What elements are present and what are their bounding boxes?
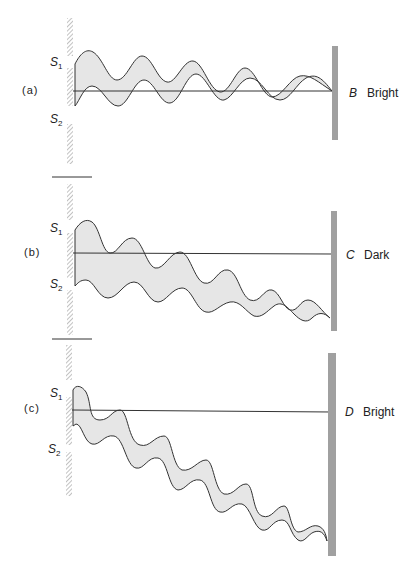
panel-b: [52, 184, 337, 339]
s2-letter: S: [48, 442, 56, 456]
s2-subscript: 2: [58, 284, 62, 293]
barrier-c-bottom: [66, 452, 72, 496]
barrier-b-bottom: [67, 290, 73, 335]
s1-letter: S: [50, 55, 58, 69]
barrier-b-top: [67, 184, 73, 220]
panel-label-a: (a): [22, 84, 38, 96]
wave-band-c: [73, 386, 327, 541]
s2-subscript: 2: [56, 449, 60, 458]
s1-subscript: 1: [58, 228, 62, 237]
screen-b: [331, 211, 337, 331]
screen-c: [328, 353, 336, 556]
centerline-c: [72, 410, 332, 412]
slit-label-s1-b: S1: [50, 221, 62, 235]
result-label-c: Bright: [363, 405, 394, 419]
slit-label-s2-c: S2: [48, 442, 60, 456]
panel-c: [66, 345, 336, 556]
wave-band-a: [75, 51, 332, 106]
panel-a: [52, 18, 338, 177]
wave-band-b: [75, 220, 330, 321]
s1-letter: S: [50, 221, 58, 235]
point-label-b: B: [349, 86, 357, 100]
s2-letter: S: [50, 277, 58, 291]
result-label-a: Bright: [367, 86, 398, 100]
result-label-b: Dark: [364, 248, 389, 262]
slit-label-s2-a: S2: [50, 112, 62, 126]
barrier-c-top: [66, 345, 72, 380]
barrier-a-mid: [67, 68, 73, 106]
barrier-c-mid: [66, 397, 72, 445]
panel-label-c: (c): [24, 402, 40, 414]
s1-letter: S: [50, 386, 58, 400]
panel-label-b: (b): [24, 246, 40, 258]
barrier-a: [67, 18, 73, 56]
point-label-c: C: [346, 248, 355, 262]
screen-a: [332, 46, 338, 140]
barrier-a-bottom: [67, 124, 73, 164]
barrier-b-mid: [67, 233, 73, 278]
slit-label-s1-c: S1: [50, 386, 62, 400]
s2-subscript: 2: [58, 119, 62, 128]
s2-letter: S: [50, 112, 58, 126]
s1-subscript: 1: [58, 393, 62, 402]
slit-label-s2-b: S2: [50, 277, 62, 291]
slit-label-s1-a: S1: [50, 55, 62, 69]
s1-subscript: 1: [58, 62, 62, 71]
point-label-d: D: [345, 405, 354, 419]
